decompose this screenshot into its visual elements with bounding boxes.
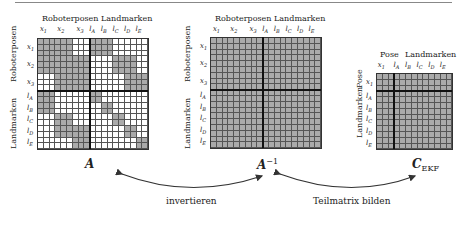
submatrix-caption: Teilmatrix bilden xyxy=(313,196,390,206)
row-label: lB xyxy=(27,104,33,113)
row-label: x3 xyxy=(27,78,34,87)
block-separator-vertical xyxy=(89,38,90,149)
row-label: x1 xyxy=(200,42,207,51)
block-separator-horizontal xyxy=(210,89,321,90)
column-label: lA xyxy=(262,25,268,34)
block-separator-vertical xyxy=(262,37,263,148)
column-label: lB xyxy=(274,25,280,34)
column-label: lE xyxy=(136,25,142,34)
column-label: lA xyxy=(393,61,399,70)
column-label: lE xyxy=(309,25,315,34)
row-label: lC xyxy=(27,115,33,124)
column-label: lB xyxy=(101,25,107,34)
row-label: lE xyxy=(366,139,372,148)
row-label: lC xyxy=(366,115,372,124)
row-label: lA xyxy=(366,92,372,101)
column-label: lC xyxy=(112,25,118,34)
column-label: lD xyxy=(124,25,130,34)
invert-arrow xyxy=(122,174,262,188)
column-label: lD xyxy=(297,25,303,34)
row-label: lE xyxy=(200,137,206,146)
row-label: lD xyxy=(366,127,372,136)
row-label: lD xyxy=(200,126,206,135)
row-label: lB xyxy=(200,103,206,112)
block-separator-horizontal xyxy=(37,90,148,91)
row-label: lC xyxy=(200,114,206,123)
row-label: x2 xyxy=(27,60,34,69)
row-label: lA xyxy=(200,91,206,100)
column-label: lE xyxy=(440,61,446,70)
row-label: x2 xyxy=(200,59,207,68)
block-separator-vertical xyxy=(393,73,394,149)
column-label: x2 xyxy=(57,25,64,34)
block-separator-horizontal xyxy=(376,90,452,91)
column-label: x1 xyxy=(40,25,47,34)
row-label: lA xyxy=(27,92,33,101)
row-label: lD xyxy=(27,127,33,136)
column-label: x1 xyxy=(213,25,220,34)
row-label: x1 xyxy=(366,78,373,87)
row-label: x1 xyxy=(27,43,34,52)
column-label: lD xyxy=(428,61,434,70)
column-label: x2 xyxy=(230,25,237,34)
column-label: lA xyxy=(89,25,95,34)
submatrix-arrow xyxy=(280,174,415,188)
column-label: lB xyxy=(405,61,411,70)
column-label: x1 xyxy=(378,61,385,70)
column-label: lC xyxy=(417,61,423,70)
column-label: x3 xyxy=(76,25,83,34)
row-label: x3 xyxy=(200,77,207,86)
column-label: x3 xyxy=(249,25,256,34)
column-label: lC xyxy=(285,25,291,34)
row-label: lB xyxy=(366,104,372,113)
row-label: lE xyxy=(27,138,33,147)
invert-caption: invertieren xyxy=(166,196,217,206)
